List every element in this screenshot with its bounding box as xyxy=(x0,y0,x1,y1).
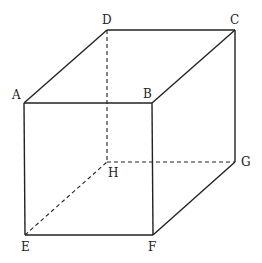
vertex-label-g: G xyxy=(241,155,251,169)
vertex-label-a: A xyxy=(11,88,21,102)
vertex-label-e: E xyxy=(21,240,30,254)
edge-fg xyxy=(153,162,235,235)
edge-da xyxy=(24,30,107,103)
edge-bf xyxy=(152,103,153,235)
edge-ae xyxy=(24,103,25,235)
vertex-label-b: B xyxy=(143,87,152,101)
edge-bc xyxy=(152,30,235,103)
vertex-label-c: C xyxy=(230,13,239,27)
vertex-label-h: H xyxy=(108,166,118,180)
vertex-label-d: D xyxy=(102,13,112,27)
hidden-edge-eh xyxy=(25,162,107,235)
vertex-label-f: F xyxy=(148,240,156,254)
cube-diagram: A B C D E F G H xyxy=(0,0,262,263)
